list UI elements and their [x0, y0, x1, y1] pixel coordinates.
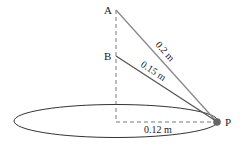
label-OP-length: 0.12 m [144, 124, 172, 135]
label-P: P [225, 116, 231, 128]
label-B: B [104, 50, 111, 62]
label-A: A [104, 4, 112, 16]
bob-P [213, 118, 221, 126]
label-BP-length: 0.15 m [139, 58, 168, 82]
label-AP-length: 0.2 m [154, 39, 178, 63]
conical-pendulum-diagram: A B P 0.2 m 0.15 m 0.12 m [0, 0, 243, 148]
